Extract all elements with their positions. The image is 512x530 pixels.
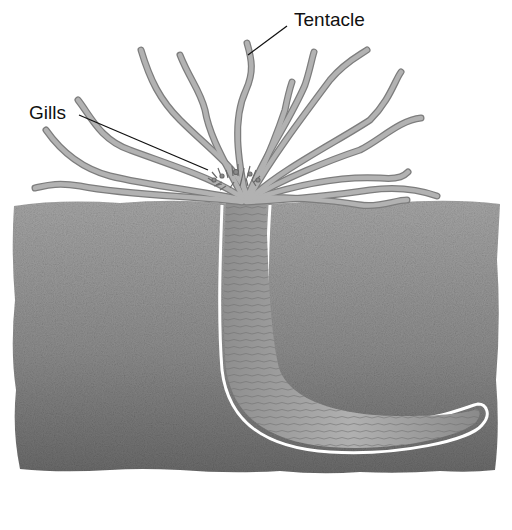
gills-label: Gills [29,103,66,122]
tentacles [35,43,437,206]
tentacle-label: Tentacle [294,10,365,29]
gills-leader-line [79,115,208,170]
tentacle-leader-line [248,26,287,55]
diagram-illustration [0,0,512,530]
leader-lines [79,26,287,170]
worm-diagram: Tentacle Gills [0,0,512,530]
